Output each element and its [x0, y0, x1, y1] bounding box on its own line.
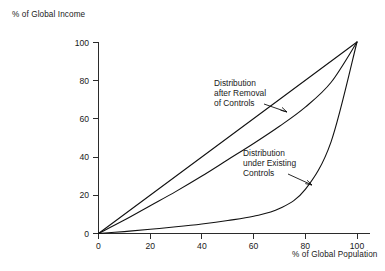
annotation-removal-line1: Distribution	[214, 78, 256, 88]
lorenz-curve-chart: % of Global Income % of Global Populatio…	[0, 0, 385, 271]
y-tick-label-40: 40	[79, 152, 89, 162]
y-tick-label-60: 60	[79, 114, 89, 124]
y-tick-label-0: 0	[84, 229, 89, 239]
y-tick-label-100: 100	[75, 38, 90, 48]
annotation-existing-leader	[288, 174, 312, 185]
x-tick-label-0: 0	[96, 241, 101, 251]
y-tick-label-20: 20	[79, 190, 89, 200]
annotation-existing-line3: Controls	[243, 168, 274, 178]
x-tick-label-100: 100	[350, 241, 365, 251]
series-line-equality	[99, 42, 358, 234]
x-tick-label-40: 40	[197, 241, 207, 251]
annotation-existing-line2: under Existing	[243, 158, 296, 168]
x-tick-label-20: 20	[145, 241, 155, 251]
chart-page: % of Global Income % of Global Populatio…	[0, 0, 385, 271]
annotation-removal-line2: after Removal	[214, 88, 266, 98]
annotation-existing-line1: Distribution	[243, 148, 285, 158]
x-axis-title: % of Global Population	[292, 250, 378, 259]
annotation-removal-line3: of Controls	[214, 98, 255, 108]
y-tick-label-80: 80	[79, 76, 89, 86]
x-tick-label-80: 80	[301, 241, 311, 251]
x-tick-label-60: 60	[249, 241, 259, 251]
y-axis-title: % of Global Income	[12, 10, 86, 19]
